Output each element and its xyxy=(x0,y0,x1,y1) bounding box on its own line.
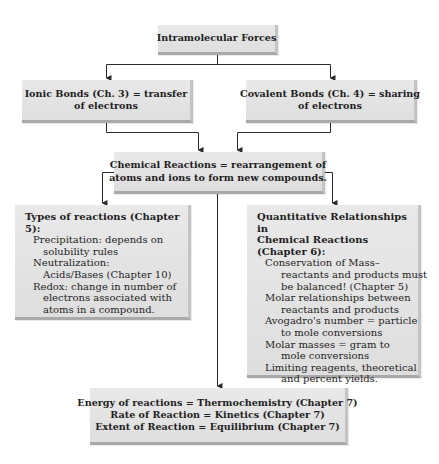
chemical-reactions-box: Chemical Reactions = rearrangement of at… xyxy=(114,152,325,194)
energy-rate-extent-box: Energy of reactions = Thermochemistry (C… xyxy=(90,388,348,445)
intramolecular-forces-box: Intramolecular Forces xyxy=(158,25,278,55)
quant-line: to mole conversions xyxy=(257,327,418,339)
quant-line: and percent yields. xyxy=(257,373,418,385)
covalent-bonds-line2: of electrons xyxy=(298,100,362,112)
types-line: Acids/Bases (Chapter 10) xyxy=(25,269,188,281)
ionic-bonds-box: Ionic Bonds (Ch. 3) = transfer of electr… xyxy=(22,80,193,123)
intramolecular-forces-label: Intramolecular Forces xyxy=(157,32,277,44)
quant-line: Molar masses = gram to xyxy=(257,339,418,351)
types-line: Redox: change in number of xyxy=(25,281,188,293)
ionic-bonds-line2: of electrons xyxy=(74,100,138,112)
quant-line: Molar relationships between xyxy=(257,292,418,304)
covalent-bonds-line1: Covalent Bonds (Ch. 4) = sharing xyxy=(240,88,420,100)
types-title: Types of reactions (Chapter 5): xyxy=(25,211,188,234)
types-line: solubility rules xyxy=(25,246,188,258)
quant-line: Limiting reagents, theoretical xyxy=(257,362,418,374)
types-line: electrons associated with xyxy=(25,292,188,304)
ionic-bonds-line1: Ionic Bonds (Ch. 3) = transfer xyxy=(25,88,188,100)
types-line: Neutralization: xyxy=(25,257,188,269)
energy-line: Energy of reactions = Thermochemistry (C… xyxy=(77,397,357,409)
types-line: atoms in a compound. xyxy=(25,304,188,316)
quant-line: Conservation of Mass– xyxy=(257,257,418,269)
types-line: Precipitation: depends on xyxy=(25,234,188,246)
quant-title-2: Chemical Reactions (Chapter 6): xyxy=(257,234,418,257)
quant-line: reactants and products xyxy=(257,304,418,316)
types-of-reactions-box: Types of reactions (Chapter 5): Precipit… xyxy=(15,205,191,320)
quant-line: be balanced! (Chapter 5) xyxy=(257,281,418,293)
chemical-reactions-line2: atoms and ions to form new compounds. xyxy=(109,172,327,184)
quant-line: Avogadro's number = particle xyxy=(257,315,418,327)
quant-line: mole conversions xyxy=(257,350,418,362)
quant-title-1: Quantitative Relationships in xyxy=(257,211,418,234)
extent-line: Extent of Reaction = Equilibrium (Chapte… xyxy=(95,421,340,433)
rate-line: Rate of Reaction = Kinetics (Chapter 7) xyxy=(110,409,324,421)
chemical-reactions-line1: Chemical Reactions = rearrangement of xyxy=(110,159,326,171)
quant-line: reactants and products must xyxy=(257,269,418,281)
quantitative-relationships-box: Quantitative Relationships in Chemical R… xyxy=(247,205,421,378)
covalent-bonds-box: Covalent Bonds (Ch. 4) = sharing of elec… xyxy=(246,80,417,123)
